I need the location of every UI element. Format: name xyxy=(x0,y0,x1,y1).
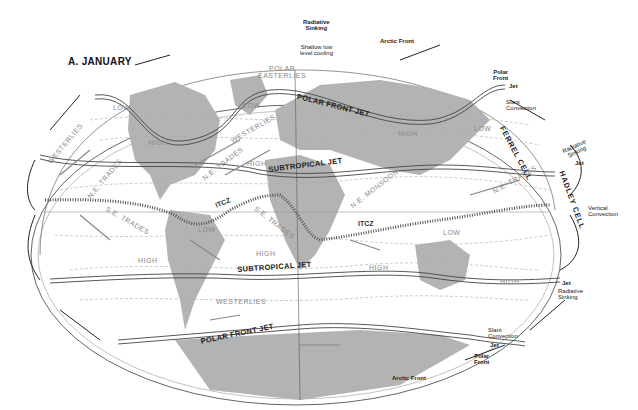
polar-easterlies-label: POLAR EASTERLIES xyxy=(258,65,306,79)
high-pressure-label: HIGH xyxy=(148,139,168,146)
high-pressure-label: HIGH xyxy=(398,130,418,137)
polar-front-top-label: Polar Front xyxy=(493,69,508,81)
jet-top-label: Jet xyxy=(509,83,518,89)
jet-north-label: Jet xyxy=(575,160,584,166)
low-pressure-label: LOW xyxy=(198,226,215,233)
slant-convection-top-label: Slant Convection xyxy=(506,99,536,111)
low-pressure-label: LOW xyxy=(443,229,460,236)
low-pressure-label: LOW xyxy=(243,102,260,109)
high-pressure-label: HIGH xyxy=(138,257,158,264)
radiative-sinking-label: Radiative Sinking xyxy=(303,19,330,31)
low-pressure-label: LOW xyxy=(113,104,130,111)
jet-bottom-label: Jet xyxy=(490,342,499,348)
high-pressure-label: HIGH xyxy=(369,264,389,271)
map-title: A. JANUARY xyxy=(68,57,132,67)
arctic-front-top-label: Arctic Front xyxy=(380,38,414,44)
slant-convection-bottom-label: Slant Convection xyxy=(488,327,518,339)
westerlies-s-label: WESTERLIES xyxy=(216,298,266,305)
polar-front-bottom-label: Polar Front xyxy=(474,353,489,365)
vertical-convection-label: Vertical Convection xyxy=(588,205,618,217)
high-pressure-label: HIGH xyxy=(500,278,520,285)
arctic-front-bottom-label: Arctic Front xyxy=(392,375,426,381)
itcz-label-east: ITCZ xyxy=(358,220,374,227)
high-pressure-label: HIGH xyxy=(256,250,276,257)
jet-south-label: Jet xyxy=(562,280,571,286)
high-pressure-label: HIGH xyxy=(247,160,267,167)
land-masses xyxy=(128,75,490,400)
low-pressure-label: LOW xyxy=(474,125,491,132)
radiative-sinking-south-label: Radiative Sinking xyxy=(558,288,583,300)
shallow-cooling-label: Shallow low level cooling xyxy=(300,44,333,56)
